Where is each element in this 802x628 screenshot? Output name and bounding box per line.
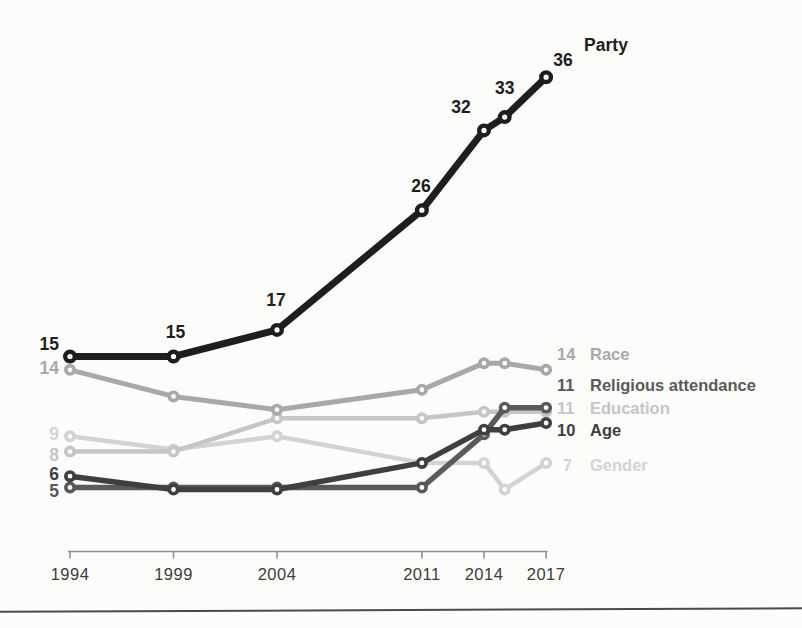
party-dot-2011 [417, 205, 427, 215]
race-dot-2004 [273, 406, 281, 414]
age-end-name-label: Age [590, 421, 621, 439]
gender-dot-2014 [480, 459, 488, 467]
gender-dot-2017 [542, 459, 550, 467]
party-point-label-2011: 26 [411, 176, 431, 196]
party-point-label-2014: 32 [451, 97, 471, 117]
education-end-value-label: 11 [557, 399, 574, 417]
religious-attendance-start-label: 5 [49, 481, 59, 501]
age-end-value-label: 10 [557, 421, 575, 439]
age-dot-2017 [542, 419, 550, 427]
race-start-label: 14 [40, 358, 60, 378]
party-point-label-2017: 36 [553, 50, 573, 70]
party-dot-2014 [479, 126, 489, 136]
party-dot-1999 [169, 352, 179, 362]
education-start-label: 8 [49, 445, 59, 465]
religious-attendance-dot-2017 [542, 404, 550, 412]
race-dot-2011 [418, 386, 426, 394]
party-dot-2015 [500, 112, 510, 122]
gender-dot-2015 [501, 485, 509, 493]
race-dot-1994 [66, 366, 74, 374]
race-dot-2015 [501, 359, 509, 367]
party-dot-2004 [272, 325, 282, 335]
education-dot-1999 [169, 447, 177, 455]
gender-dot-2004 [273, 432, 281, 440]
age-dot-2004 [273, 485, 281, 493]
age-dot-2014 [480, 425, 488, 433]
education-dot-1994 [66, 447, 74, 455]
religious-attendance-dot-1994 [66, 483, 74, 491]
year-label-2014: 2014 [465, 565, 504, 583]
chart-page: 199419992004201120142017151726323336Part… [0, 0, 802, 628]
year-label-2004: 2004 [258, 565, 297, 583]
gender-end-value-label: 7 [563, 456, 572, 474]
religious-attendance-end-name-label: Religious attendance [590, 376, 756, 394]
age-line [70, 423, 546, 490]
gap-chart-svg: 199419992004201120142017151726323336Part… [0, 0, 802, 628]
year-label-1994: 1994 [51, 565, 90, 583]
age-start-label: 6 [49, 464, 59, 484]
religious-attendance-dot-2015 [501, 404, 509, 412]
race-dot-2017 [542, 366, 550, 374]
religious-attendance-dot-2011 [418, 483, 426, 491]
party-dot-2017 [541, 72, 551, 82]
gender-end-name-label: Gender [590, 456, 648, 474]
age-dot-2011 [418, 459, 426, 467]
party-line [70, 77, 546, 356]
education-dot-2011 [418, 414, 426, 422]
religious-attendance-end-value-label: 11 [557, 376, 574, 394]
year-label-2011: 2011 [403, 565, 440, 583]
year-label-1999: 1999 [154, 565, 193, 583]
values-gap-line-chart: 199419992004201120142017151726323336Part… [0, 0, 802, 628]
party-point-label-1999: 15 [166, 322, 186, 342]
race-dot-1999 [169, 392, 177, 400]
year-label-2017: 2017 [527, 565, 566, 583]
race-dot-2014 [480, 359, 488, 367]
race-end-value-label: 14 [557, 345, 576, 363]
party-dot-1994 [65, 352, 75, 362]
party-point-label-2004: 17 [266, 290, 285, 310]
party-point-label-2015: 33 [495, 78, 515, 98]
party-series-label: Party [584, 35, 628, 55]
age-dot-2015 [501, 425, 509, 433]
education-dot-2014 [480, 408, 488, 416]
education-end-name-label: Education [590, 399, 670, 417]
race-line [70, 363, 546, 410]
age-dot-1994 [66, 472, 74, 480]
gender-start-label: 9 [49, 424, 59, 444]
party-start-label: 15 [40, 334, 60, 354]
gender-dot-1994 [66, 432, 74, 440]
age-dot-1999 [169, 485, 177, 493]
race-end-name-label: Race [590, 345, 629, 363]
